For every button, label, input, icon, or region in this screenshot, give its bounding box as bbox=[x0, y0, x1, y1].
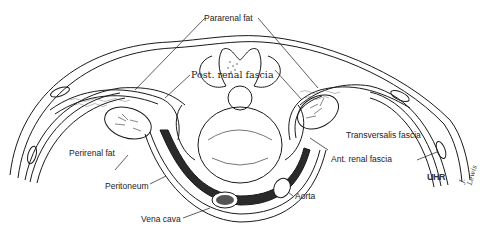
label-aorta: Aorta bbox=[295, 192, 315, 201]
vertebral-body bbox=[198, 107, 282, 183]
label-transversalis-fascia: Transversalis fascia bbox=[346, 131, 421, 140]
label-peritoneum: Peritoneum bbox=[105, 182, 148, 191]
label-vena-cava: Vena cava bbox=[141, 215, 181, 224]
label-perirenal-fat: Perirenal fat bbox=[69, 149, 115, 158]
label-pararenal-fat: Pararenal fat bbox=[204, 14, 253, 23]
label-ant-renal-fascia: Ant. renal fascia bbox=[331, 155, 392, 164]
initials-mark: UHR bbox=[427, 172, 445, 182]
diagram-artwork bbox=[0, 0, 480, 239]
anatomy-diagram: Pararenal fat Post. renal fascia Periren… bbox=[0, 0, 480, 239]
label-post-renal-fascia: Post. renal fascia bbox=[191, 70, 274, 80]
left-kidney bbox=[101, 101, 156, 144]
